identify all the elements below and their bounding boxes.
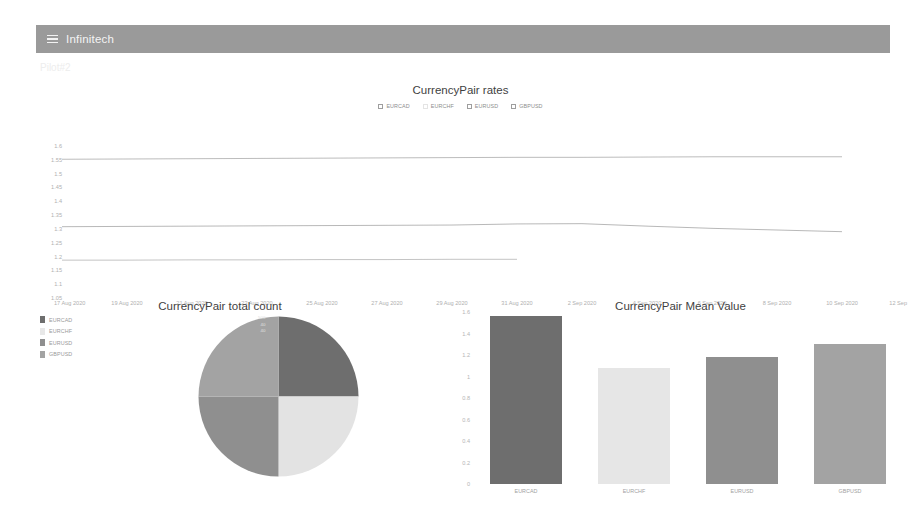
line-chart-title: CurrencyPair rates: [0, 84, 921, 96]
line-chart-series: [62, 146, 907, 298]
pie-slice-gbpusd[interactable]: [199, 317, 279, 397]
color-swatch: [40, 316, 45, 323]
y-tick-label: 1.45: [51, 184, 62, 190]
y-tick-label: 1.15: [51, 267, 62, 273]
line-series-eurcad: [62, 157, 842, 159]
y-tick-label: 0.2: [462, 460, 470, 466]
legend-item-gbpusd[interactable]: GBPUSD: [40, 351, 72, 358]
app-root: Infinitech Pilot#2 CurrencyPair rates EU…: [0, 0, 921, 525]
brand-title: Infinitech: [66, 33, 114, 45]
pie-slice-eurusd[interactable]: [199, 397, 279, 477]
y-tick-label: 1.3: [54, 226, 62, 232]
hamburger-icon[interactable]: [47, 35, 58, 44]
line-series-eurusd: [62, 259, 517, 260]
legend-item-eurchf[interactable]: EURCHF: [423, 103, 454, 109]
x-tick-label: EURUSD: [706, 488, 778, 494]
bar-chart-y-axis: 1.61.41.210.80.60.40.20: [442, 312, 470, 484]
legend-item-eurchf[interactable]: EURCHF: [40, 328, 72, 335]
bar-gbpusd[interactable]: [814, 344, 886, 484]
line-chart-y-axis: 1.61.551.51.451.41.351.31.251.21.151.11.…: [36, 146, 62, 298]
checkbox-icon[interactable]: [378, 104, 383, 109]
color-swatch: [40, 351, 45, 358]
page-title: Pilot#2: [40, 62, 71, 73]
checkbox-icon[interactable]: [467, 104, 472, 109]
x-tick-label: EURCAD: [490, 488, 562, 494]
checkbox-icon[interactable]: [511, 104, 516, 109]
legend-label: GBPUSD: [49, 351, 72, 357]
pie-slice-eurcad[interactable]: [279, 317, 359, 397]
bar-chart-title: CurrencyPair Mean Value: [440, 300, 921, 312]
legend-item-eurcad[interactable]: EURCAD: [378, 103, 409, 109]
y-tick-label: 0.4: [462, 438, 470, 444]
y-tick-label: 1.2: [462, 352, 470, 358]
bar-eurusd[interactable]: [706, 357, 778, 484]
line-chart-plot: 1.61.551.51.451.41.351.31.251.21.151.11.…: [0, 114, 921, 284]
y-tick-label: 1.6: [462, 309, 470, 315]
pie-chart-edge-ticks: 5004040: [258, 315, 265, 335]
y-tick-label: 1.6: [54, 143, 62, 149]
y-tick-label: 1.1: [54, 281, 62, 287]
y-tick-label: 0: [467, 481, 470, 487]
y-tick-label: 1.55: [51, 157, 62, 163]
pie-chart-body: 5004040: [196, 314, 361, 483]
x-tick-label: EURCHF: [598, 488, 670, 494]
y-tick-label: 1.5: [54, 171, 62, 177]
bar-chart-x-axis: EURCADEURCHFEURUSDGBPUSD: [472, 488, 904, 494]
pie-chart-legend: EURCAD EURCHF EURUSD GBPUSD: [40, 316, 72, 362]
legend-label: EURUSD: [49, 340, 72, 346]
legend-label: GBPUSD: [519, 103, 542, 109]
legend-item-eurcad[interactable]: EURCAD: [40, 316, 72, 323]
checkbox-icon[interactable]: [423, 104, 428, 109]
y-tick-label: 0.6: [462, 417, 470, 423]
legend-item-eurusd[interactable]: EURUSD: [467, 103, 498, 109]
app-header: Infinitech: [36, 25, 890, 53]
legend-label: EURCAD: [386, 103, 409, 109]
pie-edge-tick: 500: [258, 315, 265, 322]
y-tick-label: 1.4: [462, 331, 470, 337]
pie-chart-slices[interactable]: [196, 314, 361, 479]
pie-slice-eurchf[interactable]: [279, 397, 359, 477]
pie-chart-panel: CurrencyPair total count EURCAD EURCHF E…: [0, 300, 440, 525]
legend-item-eurusd[interactable]: EURUSD: [40, 339, 72, 346]
line-series-gbpusd: [62, 224, 842, 232]
y-tick-label: 1.35: [51, 212, 62, 218]
y-tick-label: 1.25: [51, 240, 62, 246]
bar-chart-plot: [472, 312, 904, 484]
color-swatch: [40, 328, 45, 335]
legend-label: EURCHF: [49, 328, 72, 334]
pie-edge-tick: 40: [258, 328, 265, 335]
legend-item-gbpusd[interactable]: GBPUSD: [511, 103, 542, 109]
color-swatch: [40, 339, 45, 346]
legend-label: EURCHF: [431, 103, 454, 109]
y-tick-label: 1.4: [54, 198, 62, 204]
bar-eurcad[interactable]: [490, 316, 562, 484]
line-chart-panel: CurrencyPair rates EURCAD EURCHF EURUSD …: [0, 84, 921, 284]
y-tick-label: 1.2: [54, 254, 62, 260]
x-tick-label: GBPUSD: [814, 488, 886, 494]
bar-eurchf[interactable]: [598, 368, 670, 484]
legend-label: EURCAD: [49, 317, 72, 323]
line-chart-legend: EURCAD EURCHF EURUSD GBPUSD: [0, 103, 921, 109]
bar-chart-panel: CurrencyPair Mean Value 1.61.41.210.80.6…: [440, 300, 921, 525]
y-tick-label: 1: [467, 374, 470, 380]
legend-label: EURUSD: [475, 103, 498, 109]
y-tick-label: 0.8: [462, 395, 470, 401]
pie-chart-title: CurrencyPair total count: [0, 300, 440, 312]
